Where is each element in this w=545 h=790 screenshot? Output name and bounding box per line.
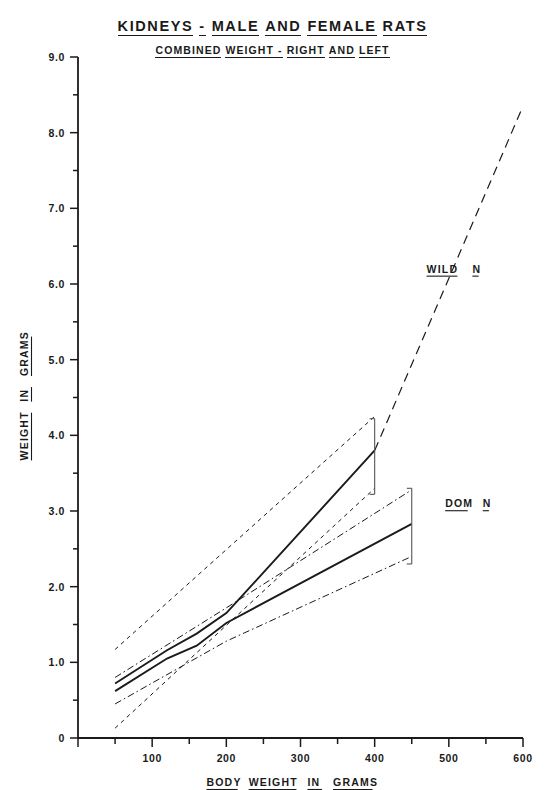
chart-plot-area: 01.02.03.04.05.06.07.08.09.0100200300400… bbox=[0, 0, 545, 790]
x-axis-tick-label: 300 bbox=[291, 752, 310, 764]
x-axis-label: WEIGHT bbox=[249, 776, 298, 788]
series-line-dom-n bbox=[115, 524, 412, 691]
y-axis-tick-label: 2.0 bbox=[49, 581, 65, 593]
y-axis-tick-label: 3.0 bbox=[49, 505, 65, 517]
series-line-wild-n bbox=[115, 450, 375, 683]
series-label-n: N bbox=[472, 263, 481, 275]
y-axis-tick-label: 0 bbox=[59, 732, 65, 744]
x-axis-tick-label: 100 bbox=[143, 752, 162, 764]
series-line-wild-n-extrapolation bbox=[375, 106, 523, 450]
series-line-wild-n-upper-limit bbox=[115, 416, 375, 649]
x-axis-tick-label: 400 bbox=[365, 752, 384, 764]
series-label-n: N bbox=[483, 497, 492, 509]
y-axis-tick-label: 6.0 bbox=[49, 278, 65, 290]
y-axis-label-group: WEIGHTINGRAMS bbox=[18, 331, 32, 460]
series-line-dom-n-upper-limit bbox=[115, 490, 412, 678]
y-axis-tick-label: 7.0 bbox=[49, 202, 65, 214]
y-axis-tick-label: 4.0 bbox=[49, 429, 65, 441]
x-axis-tick-label: 500 bbox=[439, 752, 458, 764]
y-axis-label: IN bbox=[18, 389, 30, 402]
y-axis-tick-label: 1.0 bbox=[49, 656, 65, 668]
x-axis-label: IN bbox=[307, 776, 320, 788]
y-axis-tick-label: 5.0 bbox=[49, 354, 65, 366]
series-label-dom: DOM bbox=[445, 497, 473, 509]
x-axis-label-group: BODYWEIGHTINGRAMS bbox=[206, 776, 378, 790]
y-axis-tick-label: 9.0 bbox=[49, 51, 65, 63]
series-line-dom-n-lower-limit bbox=[115, 556, 412, 704]
y-axis-label: GRAMS bbox=[18, 331, 30, 376]
x-axis-label: GRAMS bbox=[333, 776, 378, 788]
x-axis-label: BODY bbox=[206, 776, 241, 788]
y-axis-tick-label: 8.0 bbox=[49, 127, 65, 139]
y-axis-label: WEIGHT bbox=[18, 411, 30, 460]
series-line-wild-n-lower-limit bbox=[115, 488, 375, 728]
x-axis-tick-label: 600 bbox=[513, 752, 532, 764]
chart-figure: KIDNEYS-MALEANDFEMALERATS COMBINEDWEIGHT… bbox=[0, 0, 545, 790]
x-axis-tick-label: 200 bbox=[217, 752, 236, 764]
